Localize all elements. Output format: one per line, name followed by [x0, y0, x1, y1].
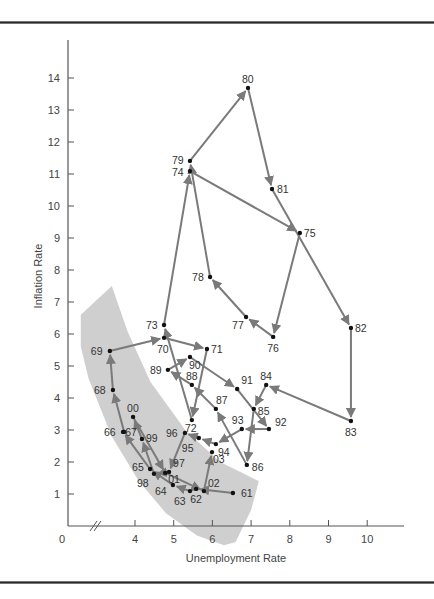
point-dot: [188, 489, 192, 493]
trajectory-segment: [249, 319, 273, 336]
data-point-85: 85: [252, 405, 270, 417]
point-label: 79: [172, 154, 184, 166]
data-point-71: 71: [205, 343, 223, 355]
x-tick-label: 5: [171, 533, 177, 545]
point-label: 90: [189, 359, 201, 371]
point-label: 62: [190, 493, 202, 505]
x-tick-label: 7: [248, 533, 254, 545]
point-dot: [252, 407, 256, 411]
point-dot: [208, 275, 212, 279]
point-label: 02: [208, 477, 220, 489]
point-dot: [162, 336, 166, 340]
point-label: 80: [242, 73, 254, 85]
point-label: 84: [260, 370, 272, 382]
y-axis-title: Inflation Rate: [32, 244, 44, 309]
point-label: 65: [132, 461, 144, 473]
x-tick-label: 10: [361, 533, 373, 545]
x-tick-label: 8: [287, 533, 293, 545]
point-dot: [197, 436, 201, 440]
point-label: 92: [275, 416, 287, 428]
point-label: 96: [166, 427, 178, 439]
point-label: 00: [127, 402, 139, 414]
data-point-89: 89: [150, 364, 170, 376]
trajectory-segment: [272, 189, 349, 324]
point-label: 99: [146, 432, 158, 444]
trajectory-segment: [256, 385, 267, 405]
point-label: 82: [355, 322, 367, 334]
point-label: 03: [213, 453, 225, 465]
point-label: 86: [252, 461, 264, 473]
point-label: 68: [94, 384, 106, 396]
trajectory-segment: [248, 88, 271, 185]
point-dot: [140, 437, 144, 441]
x-axis-title: Unemployment Rate: [186, 552, 286, 564]
point-dot: [298, 231, 302, 235]
point-label: 69: [91, 345, 103, 357]
x-tick-label: 4: [132, 533, 138, 545]
point-label: 93: [232, 414, 244, 426]
point-dot: [214, 407, 218, 411]
trajectory-segment: [247, 409, 253, 461]
data-point-67: 67: [122, 426, 137, 438]
point-label: 66: [104, 426, 116, 438]
data-point-03: 03: [210, 450, 225, 465]
point-dot: [194, 487, 198, 491]
axes: [68, 40, 404, 531]
point-dot: [111, 388, 115, 392]
data-point-93: 93: [232, 414, 244, 431]
point-label: 75: [304, 227, 316, 239]
point-dot: [246, 86, 250, 90]
data-point-86: 86: [245, 461, 264, 473]
point-label: 83: [345, 426, 357, 438]
point-label: 71: [211, 343, 223, 355]
point-label: 89: [150, 364, 162, 376]
point-dot: [131, 415, 135, 419]
y-tick-label: 9: [54, 232, 60, 244]
trajectory-segment: [190, 91, 246, 161]
trajectory-segment: [219, 429, 241, 442]
trajectory-segment: [190, 171, 296, 231]
trajectory-segment: [213, 280, 246, 317]
point-label: 77: [232, 319, 244, 331]
y-tick-label: 7: [54, 296, 60, 308]
y-axis-ticks: 1234567891011121314: [48, 72, 74, 500]
point-dot: [349, 326, 353, 330]
point-dot: [205, 347, 209, 351]
point-label: 78: [192, 271, 204, 283]
point-label: 97: [173, 457, 185, 469]
point-label: 01: [168, 473, 180, 485]
data-point-88: 88: [186, 370, 198, 387]
point-dot: [188, 169, 192, 173]
point-dot: [245, 463, 249, 467]
data-point-91: 91: [235, 374, 253, 391]
point-dot: [183, 431, 187, 435]
data-point-83: 83: [345, 419, 357, 438]
point-label: 88: [186, 370, 198, 382]
y-tick-label: 4: [54, 392, 60, 404]
point-label: 74: [172, 166, 184, 178]
point-label: 98: [137, 477, 149, 489]
point-label: 73: [146, 319, 158, 331]
point-label: 63: [174, 495, 186, 507]
data-point-77: 77: [232, 315, 248, 331]
point-label: 87: [216, 394, 228, 406]
point-label: 81: [277, 183, 289, 195]
point-label: 91: [241, 374, 253, 386]
point-dot: [267, 427, 271, 431]
point-dot: [240, 427, 244, 431]
y-tick-label: 3: [54, 424, 60, 436]
point-dot: [264, 383, 268, 387]
point-label: 64: [155, 485, 167, 497]
point-dot: [349, 419, 353, 423]
point-dot: [148, 467, 152, 471]
point-dot: [166, 368, 170, 372]
y-tick-label: 6: [54, 328, 60, 340]
point-label: 70: [157, 343, 169, 355]
y-tick-label: 11: [49, 168, 60, 180]
phillips-curve-chart: 1234567891011121314 045678910 6162636465…: [0, 0, 434, 599]
trajectory-segment: [274, 233, 300, 333]
point-label: 67: [125, 426, 137, 438]
point-label: 85: [258, 405, 270, 417]
data-point-90: 90: [188, 355, 201, 371]
y-tick-label: 1: [54, 488, 60, 500]
